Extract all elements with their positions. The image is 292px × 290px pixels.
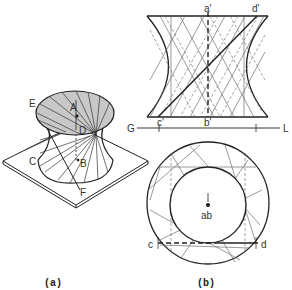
caption-b: (b) xyxy=(197,278,215,289)
panel-b-top-view xyxy=(147,142,269,264)
panel-b-front-view xyxy=(137,12,280,132)
label-c: C xyxy=(29,156,36,167)
label-d-prime: d' xyxy=(252,3,260,14)
label-ab: ab xyxy=(201,210,213,221)
label-g: G xyxy=(127,123,135,134)
caption-a: (a) xyxy=(44,278,62,289)
axis-point-ab xyxy=(206,203,209,206)
hyperboloid-diagram: E A D C B F xyxy=(0,0,292,290)
label-c: c xyxy=(148,239,153,250)
label-f: F xyxy=(80,187,86,198)
label-a-prime: a' xyxy=(204,3,212,14)
label-d: d xyxy=(261,239,267,250)
label-l: L xyxy=(283,123,289,134)
top-ellipse xyxy=(36,91,114,135)
label-e: E xyxy=(29,98,36,109)
label-b: B xyxy=(80,158,87,169)
label-c-prime: c' xyxy=(157,117,164,128)
label-a: A xyxy=(70,102,77,113)
front-left-contour xyxy=(147,16,169,117)
label-b-prime: b' xyxy=(204,117,212,128)
label-d: D xyxy=(79,125,86,136)
